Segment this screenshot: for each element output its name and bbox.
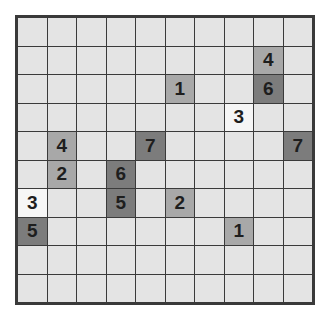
grid-cell[interactable] <box>107 18 136 46</box>
clue-cell[interactable]: 4 <box>48 132 77 160</box>
grid-cell[interactable] <box>195 104 224 132</box>
grid-cell[interactable] <box>166 104 195 132</box>
grid-cell[interactable] <box>136 18 165 46</box>
grid-cell[interactable] <box>254 161 283 189</box>
grid-cell[interactable] <box>77 75 106 103</box>
grid-cell[interactable] <box>254 275 283 303</box>
grid-cell[interactable] <box>166 161 195 189</box>
grid-cell[interactable] <box>77 132 106 160</box>
grid-cell[interactable] <box>48 218 77 246</box>
grid-cell[interactable] <box>18 275 47 303</box>
clue-cell[interactable]: 2 <box>48 161 77 189</box>
grid-cell[interactable] <box>107 75 136 103</box>
grid-cell[interactable] <box>48 246 77 274</box>
grid-cell[interactable] <box>254 246 283 274</box>
grid-cell[interactable] <box>195 75 224 103</box>
grid-cell[interactable] <box>166 246 195 274</box>
grid-cell[interactable] <box>77 104 106 132</box>
grid-cell[interactable] <box>77 18 106 46</box>
grid-cell[interactable] <box>107 132 136 160</box>
grid-cell[interactable] <box>48 75 77 103</box>
grid-cell[interactable] <box>18 75 47 103</box>
grid-cell[interactable] <box>18 132 47 160</box>
clue-cell[interactable]: 6 <box>254 75 283 103</box>
grid-cell[interactable] <box>166 218 195 246</box>
grid-cell[interactable] <box>136 218 165 246</box>
grid-cell[interactable] <box>225 275 254 303</box>
grid-cell[interactable] <box>284 275 313 303</box>
grid-cell[interactable] <box>107 47 136 75</box>
grid-cell[interactable] <box>136 104 165 132</box>
grid-cell[interactable] <box>284 161 313 189</box>
grid-cell[interactable] <box>18 246 47 274</box>
grid-cell[interactable] <box>195 275 224 303</box>
grid-cell[interactable] <box>77 218 106 246</box>
clue-cell[interactable]: 4 <box>254 47 283 75</box>
clue-cell[interactable]: 5 <box>18 218 47 246</box>
grid-cell[interactable] <box>225 47 254 75</box>
clue-cell[interactable]: 2 <box>166 189 195 217</box>
grid-cell[interactable] <box>284 18 313 46</box>
clue-cell[interactable]: 5 <box>107 189 136 217</box>
grid-cell[interactable] <box>225 18 254 46</box>
grid-cell[interactable] <box>48 275 77 303</box>
grid-cell[interactable] <box>18 161 47 189</box>
grid-cell[interactable] <box>136 47 165 75</box>
grid-cell[interactable] <box>136 75 165 103</box>
grid-cell[interactable] <box>136 246 165 274</box>
grid-cell[interactable] <box>136 161 165 189</box>
grid-cell[interactable] <box>195 161 224 189</box>
grid-cell[interactable] <box>107 104 136 132</box>
clue-cell[interactable]: 1 <box>225 218 254 246</box>
grid-cell[interactable] <box>166 132 195 160</box>
grid-cell[interactable] <box>225 75 254 103</box>
grid-cell[interactable] <box>284 246 313 274</box>
grid-cell[interactable] <box>77 246 106 274</box>
grid-cell[interactable] <box>107 246 136 274</box>
grid-cell[interactable] <box>254 132 283 160</box>
grid-cell[interactable] <box>77 275 106 303</box>
grid-cell[interactable] <box>254 218 283 246</box>
grid-cell[interactable] <box>18 47 47 75</box>
grid-cell[interactable] <box>284 75 313 103</box>
grid-cell[interactable] <box>195 18 224 46</box>
grid-cell[interactable] <box>195 218 224 246</box>
grid-cell[interactable] <box>136 189 165 217</box>
clue-cell[interactable]: 7 <box>284 132 313 160</box>
grid-cell[interactable] <box>225 189 254 217</box>
grid-cell[interactable] <box>48 189 77 217</box>
clue-cell[interactable]: 3 <box>225 104 254 132</box>
grid-cell[interactable] <box>107 275 136 303</box>
clue-cell[interactable]: 7 <box>136 132 165 160</box>
grid-cell[interactable] <box>225 161 254 189</box>
grid-cell[interactable] <box>166 18 195 46</box>
grid-cell[interactable] <box>77 189 106 217</box>
clue-cell[interactable]: 1 <box>166 75 195 103</box>
grid-cell[interactable] <box>195 189 224 217</box>
grid-cell[interactable] <box>284 189 313 217</box>
grid-cell[interactable] <box>18 18 47 46</box>
grid-cell[interactable] <box>195 132 224 160</box>
grid-cell[interactable] <box>48 47 77 75</box>
grid-cell[interactable] <box>195 47 224 75</box>
grid-cell[interactable] <box>107 218 136 246</box>
clue-cell[interactable]: 3 <box>18 189 47 217</box>
grid-cell[interactable] <box>77 47 106 75</box>
grid-cell[interactable] <box>284 47 313 75</box>
grid-cell[interactable] <box>166 275 195 303</box>
grid-cell[interactable] <box>48 18 77 46</box>
grid-cell[interactable] <box>77 161 106 189</box>
grid-cell[interactable] <box>195 246 224 274</box>
grid-cell[interactable] <box>284 104 313 132</box>
grid-cell[interactable] <box>254 189 283 217</box>
grid-cell[interactable] <box>136 275 165 303</box>
grid-cell[interactable] <box>284 218 313 246</box>
grid-cell[interactable] <box>18 104 47 132</box>
grid-cell[interactable] <box>225 246 254 274</box>
grid-cell[interactable] <box>48 104 77 132</box>
grid-cell[interactable] <box>254 18 283 46</box>
grid-cell[interactable] <box>225 132 254 160</box>
grid-cell[interactable] <box>166 47 195 75</box>
grid-cell[interactable] <box>254 104 283 132</box>
clue-cell[interactable]: 6 <box>107 161 136 189</box>
